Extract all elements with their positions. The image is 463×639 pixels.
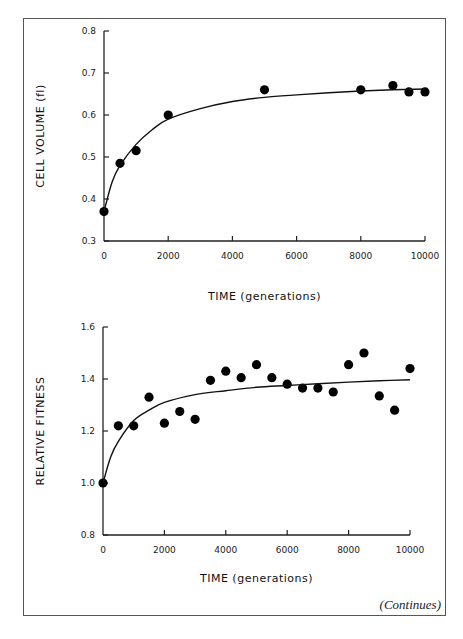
x-tick-label: 10000 — [396, 545, 425, 555]
data-point — [206, 376, 215, 385]
data-point — [344, 360, 353, 369]
x-tick-label: 8000 — [337, 545, 360, 555]
x-tick-label: 4000 — [221, 251, 244, 261]
x-tick-label: 6000 — [285, 251, 308, 261]
y-tick-label: 0.3 — [82, 236, 96, 246]
y-tick-label: 1.2 — [81, 426, 95, 436]
continues-label: (Continues) — [380, 597, 441, 613]
y-tick-label: 1.6 — [81, 322, 96, 332]
x-axis-label: TIME (generations) — [207, 290, 321, 303]
y-axis-label: RELATIVE FITNESS — [34, 376, 47, 485]
figure-plots: 0.30.40.50.60.70.80200040006000800010000… — [0, 0, 463, 639]
y-tick-label: 0.8 — [82, 26, 97, 36]
y-tick-label: 0.4 — [82, 194, 97, 204]
data-point — [191, 415, 200, 424]
x-tick-label: 4000 — [214, 545, 237, 555]
data-point — [175, 407, 184, 416]
data-point — [283, 380, 292, 389]
y-tick-label: 1.4 — [81, 374, 96, 384]
y-axis-label: CELL VOLUME (fl) — [34, 84, 47, 187]
x-tick-label: 10000 — [411, 251, 440, 261]
data-point — [144, 393, 153, 402]
y-tick-label: 0.8 — [81, 530, 96, 540]
y-tick-label: 0.6 — [82, 110, 97, 120]
y-tick-label: 0.7 — [82, 68, 96, 78]
cell-volume-chart: 0.30.40.50.60.70.80200040006000800010000… — [34, 26, 440, 303]
data-point — [329, 387, 338, 396]
x-axis-label: TIME (generations) — [199, 572, 313, 585]
y-tick-label: 1.0 — [81, 478, 96, 488]
data-point — [160, 419, 169, 428]
data-point — [405, 364, 414, 373]
data-point — [388, 81, 397, 90]
data-point — [221, 367, 230, 376]
data-point — [267, 373, 276, 382]
x-tick-label: 0 — [100, 545, 106, 555]
data-point — [114, 421, 123, 430]
relative-fitness-chart: 0.81.01.21.41.60200040006000800010000TIM… — [34, 322, 425, 585]
data-point — [390, 406, 399, 415]
x-tick-label: 2000 — [153, 545, 176, 555]
data-point — [359, 348, 368, 357]
fit-curve — [104, 89, 425, 212]
data-point — [260, 85, 269, 94]
data-point — [356, 85, 365, 94]
data-point — [129, 421, 138, 430]
data-point — [375, 391, 384, 400]
data-point — [252, 360, 261, 369]
data-point — [237, 373, 246, 382]
x-tick-label: 2000 — [157, 251, 180, 261]
x-tick-label: 8000 — [349, 251, 372, 261]
data-point — [313, 384, 322, 393]
x-tick-label: 6000 — [276, 545, 299, 555]
x-tick-label: 0 — [101, 251, 107, 261]
y-tick-label: 0.5 — [82, 152, 96, 162]
